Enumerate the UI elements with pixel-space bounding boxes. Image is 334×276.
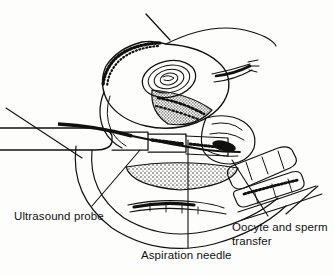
catheter-guide-line-1 [238,186,316,212]
endometrium-stipple-border-inner [107,46,158,87]
medical-illustration-figure: Ultrasound probe Aspiration needle Oocyt… [0,0,334,276]
probe-shaft-outline [0,128,112,150]
fallopian-tube-ink [216,66,250,76]
leader-line-oocyte-transfer-aux [286,186,318,214]
follicle-ring-3 [152,67,185,92]
pointer-line-top [146,14,170,40]
leader-line-ultrasound-probe [92,150,140,206]
ovary-stipple-fill [148,88,218,132]
uterus-left-lobe [100,92,122,148]
aspiration-needle-shaft [132,136,206,150]
fimbria-fringe [248,60,259,72]
label-aspiration-needle: Aspiration needle [141,249,232,263]
follicle-core [163,76,174,81]
cervix-fold-2 [210,133,244,140]
follicle-ring-4 [159,71,179,86]
endometrium-stipple-border [103,43,160,86]
abdominal-wall-contour [166,28,276,46]
vaginal-canal-ink [134,203,194,207]
bladder-stipple-fill [122,156,244,194]
aspiration-needle-ink [58,124,132,136]
vaginal-canal-lower [130,208,226,214]
catheter-segment-lines [246,151,284,180]
label-oocyte-and-sperm-transfer: Oocyte and sperm transfer [232,221,328,248]
label-ultrasound-probe: Ultrasound probe [14,210,104,224]
cervix-fold-1 [212,123,242,130]
